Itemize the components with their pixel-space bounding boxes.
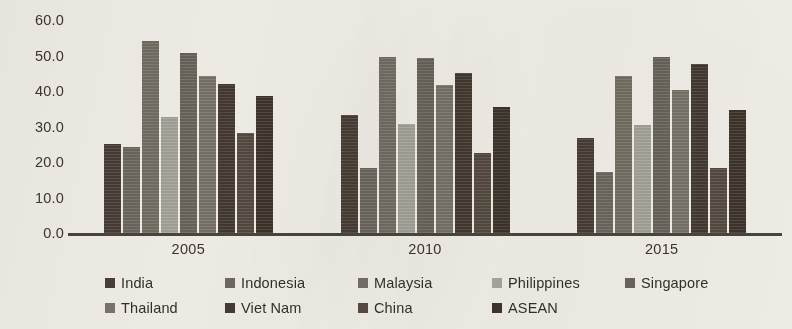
y-tick-label: 30.0 <box>35 120 64 134</box>
chart-page: 60.050.040.030.020.010.00.0 200520102015… <box>0 0 792 329</box>
legend-label: Thailand <box>121 301 178 315</box>
legend-label: Singapore <box>641 276 708 290</box>
legend-label: Malaysia <box>374 276 432 290</box>
bar-thailand-2010 <box>436 85 453 233</box>
legend-swatch-icon <box>358 303 368 313</box>
x-axis-label: 2010 <box>408 236 441 262</box>
bar-malaysia-2010 <box>379 57 396 233</box>
y-tick-label: 40.0 <box>35 84 64 98</box>
legend-swatch-icon <box>358 278 368 288</box>
legend-item-malaysia: Malaysia <box>358 276 432 290</box>
bar-india-2015 <box>577 138 594 233</box>
bar-malaysia-2015 <box>615 76 632 233</box>
legend-item-china: China <box>358 301 413 315</box>
legend-label: Indonesia <box>241 276 305 290</box>
plot-area: 60.050.040.030.020.010.00.0 200520102015 <box>0 0 792 250</box>
legend-item-indonesia: Indonesia <box>225 276 305 290</box>
bars-area <box>70 0 780 233</box>
bar-group <box>577 0 746 233</box>
legend-row: ThailandViet NamChinaASEAN <box>0 301 792 325</box>
legend-item-singapore: Singapore <box>625 276 708 290</box>
y-tick-label: 50.0 <box>35 49 64 63</box>
chart-legend: IndiaIndonesiaMalaysiaPhilippinesSingapo… <box>0 276 792 329</box>
y-axis: 60.050.040.030.020.010.00.0 <box>8 0 64 250</box>
bar-indonesia-2010 <box>360 168 377 233</box>
bar-viet-nam-2005 <box>218 84 235 233</box>
bar-india-2010 <box>341 115 358 233</box>
bar-thailand-2005 <box>199 76 216 233</box>
bar-asean-2005 <box>256 96 273 233</box>
y-tick-label: 10.0 <box>35 191 64 205</box>
bar-philippines-2010 <box>398 124 415 233</box>
bar-china-2005 <box>237 133 254 233</box>
bar-malaysia-2005 <box>142 41 159 233</box>
legend-label: Philippines <box>508 276 580 290</box>
legend-item-viet-nam: Viet Nam <box>225 301 302 315</box>
bar-china-2010 <box>474 153 491 233</box>
legend-label: China <box>374 301 413 315</box>
legend-swatch-icon <box>492 278 502 288</box>
bar-india-2005 <box>104 144 121 233</box>
bar-group <box>104 0 273 233</box>
bar-singapore-2015 <box>653 57 670 233</box>
legend-label: Viet Nam <box>241 301 302 315</box>
bar-asean-2010 <box>493 107 510 233</box>
legend-label: India <box>121 276 153 290</box>
legend-item-thailand: Thailand <box>105 301 178 315</box>
bar-singapore-2010 <box>417 58 434 233</box>
bar-viet-nam-2015 <box>691 64 708 233</box>
bar-thailand-2015 <box>672 90 689 233</box>
legend-item-india: India <box>105 276 153 290</box>
legend-swatch-icon <box>225 278 235 288</box>
bar-group <box>341 0 510 233</box>
legend-item-philippines: Philippines <box>492 276 580 290</box>
bar-philippines-2005 <box>161 117 178 233</box>
x-axis-label: 2015 <box>645 236 678 262</box>
bar-singapore-2005 <box>180 53 197 233</box>
legend-swatch-icon <box>105 303 115 313</box>
bar-asean-2015 <box>729 110 746 233</box>
bar-indonesia-2005 <box>123 147 140 233</box>
legend-swatch-icon <box>492 303 502 313</box>
legend-swatch-icon <box>105 278 115 288</box>
y-tick-label: 60.0 <box>35 13 64 27</box>
legend-item-asean: ASEAN <box>492 301 558 315</box>
bar-philippines-2015 <box>634 125 651 233</box>
bar-viet-nam-2010 <box>455 73 472 233</box>
bar-china-2015 <box>710 168 727 233</box>
legend-label: ASEAN <box>508 301 558 315</box>
bar-indonesia-2015 <box>596 172 613 233</box>
legend-row: IndiaIndonesiaMalaysiaPhilippinesSingapo… <box>0 276 792 300</box>
x-axis-labels: 200520102015 <box>70 236 780 264</box>
x-axis-label: 2005 <box>172 236 205 262</box>
legend-swatch-icon <box>225 303 235 313</box>
y-tick-label: 20.0 <box>35 155 64 169</box>
y-tick-label: 0.0 <box>43 226 64 240</box>
legend-swatch-icon <box>625 278 635 288</box>
